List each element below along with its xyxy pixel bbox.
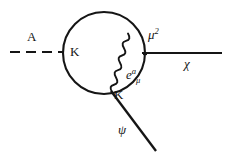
label-right-vertex-mu-squared: μ2 [148,27,159,41]
label-loop-vertex-bottom: K [114,88,123,101]
label-incoming-dashed: A [27,30,36,43]
label-outgoing-fermion: ψ [118,123,126,136]
label-mu-superscript: 2 [155,26,159,36]
label-outgoing-solid: χ [184,57,190,70]
label-e-subscript: μ [136,75,140,85]
label-loop-vertex-left: K [70,45,79,58]
label-wavy-vierbein: eaμ [126,67,140,85]
feynman-diagram-figure: A K μ2 χ eaμ K ψ [0,0,229,157]
feynman-diagram-canvas [0,0,229,157]
